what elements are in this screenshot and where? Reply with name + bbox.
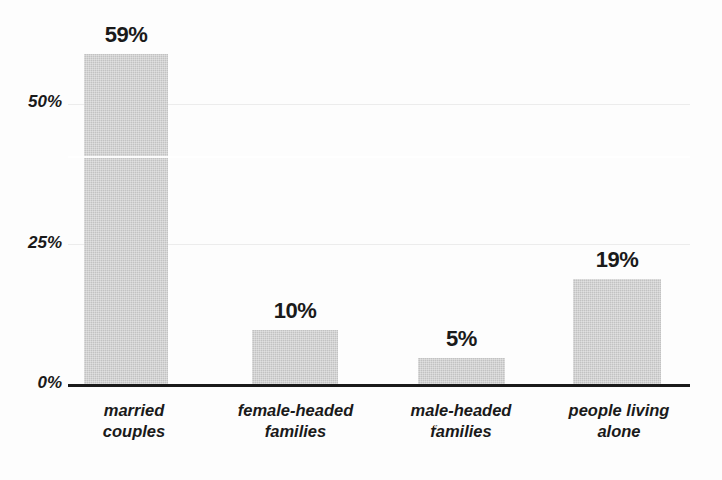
x-label-line-1: people living <box>569 401 670 419</box>
bar-group-female-headed-families: 10% <box>252 12 338 386</box>
x-label-line-1: male-headed <box>411 401 512 419</box>
y-tick-label-0: 0% <box>37 373 62 393</box>
bar-group-people-living-alone: 19% <box>573 12 661 386</box>
y-tick-label-25: 25% <box>28 233 62 253</box>
x-label-married-couples: married couples <box>68 400 200 442</box>
bar-people-living-alone[interactable] <box>573 279 661 386</box>
x-label-line-2: families <box>218 421 373 442</box>
x-label-male-headed-families: male-headed families <box>386 400 536 442</box>
plot-area: 59% 10% 5% 19% <box>68 10 690 386</box>
bar-group-married-couples: 59% <box>84 12 168 386</box>
bar-male-headed-families[interactable] <box>418 358 505 386</box>
bar-value-label: 5% <box>418 326 505 352</box>
bar-married-couples[interactable] <box>84 54 168 386</box>
x-label-line-2: couples <box>68 421 200 442</box>
x-axis-labels: married couples female-headed families m… <box>68 392 690 462</box>
x-label-line-2: families <box>386 421 536 442</box>
scan-crease-artifact <box>68 156 690 158</box>
bar-group-male-headed-families: 5% <box>418 12 505 386</box>
bar-value-label: 59% <box>84 22 168 48</box>
x-label-female-headed-families: female-headed families <box>218 400 373 442</box>
x-label-line-2: alone <box>546 421 692 442</box>
bar-female-headed-families[interactable] <box>252 330 338 386</box>
y-tick-label-50: 50% <box>28 92 62 112</box>
bar-chart: 50% 25% 0% 59% 10% 5% 19% married couple… <box>0 0 722 480</box>
x-axis-line <box>68 384 690 387</box>
scan-speck <box>434 425 437 428</box>
bar-value-label: 19% <box>573 247 661 273</box>
x-label-line-1: married <box>104 401 165 419</box>
y-axis-labels: 50% 25% 0% <box>0 0 62 480</box>
x-label-people-living-alone: people living alone <box>546 400 692 442</box>
x-label-line-1: female-headed <box>238 401 354 419</box>
bar-value-label: 10% <box>252 298 338 324</box>
